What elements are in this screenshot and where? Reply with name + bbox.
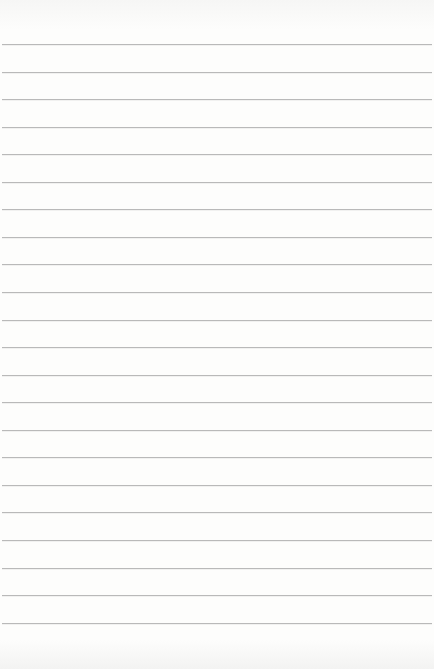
- ruled-line: [2, 540, 432, 541]
- ruled-line: [2, 127, 432, 128]
- ruled-line: [2, 457, 432, 458]
- ruled-line: [2, 99, 432, 100]
- ruled-line: [2, 44, 432, 45]
- ruled-line: [2, 485, 432, 486]
- ruled-line: [2, 154, 432, 155]
- ruled-line: [2, 430, 432, 431]
- lined-paper-sheet: [0, 0, 434, 669]
- ruled-line: [2, 623, 432, 624]
- ruled-line: [2, 72, 432, 73]
- ruled-line: [2, 320, 432, 321]
- ruled-line: [2, 568, 432, 569]
- ruled-line: [2, 209, 432, 210]
- ruled-line: [2, 512, 432, 513]
- ruled-line: [2, 292, 432, 293]
- ruled-line: [2, 264, 432, 265]
- ruled-line: [2, 347, 432, 348]
- ruled-line: [2, 402, 432, 403]
- ruled-line: [2, 375, 432, 376]
- ruled-line: [2, 182, 432, 183]
- ruled-line: [2, 237, 432, 238]
- ruled-line: [2, 595, 432, 596]
